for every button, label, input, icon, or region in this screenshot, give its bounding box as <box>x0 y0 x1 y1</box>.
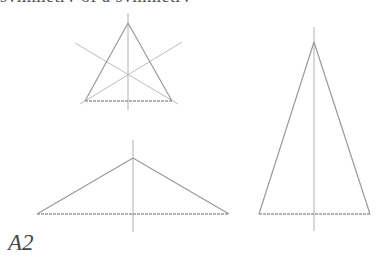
symmetry-diagram <box>0 0 384 262</box>
obtuse-isosceles-triangle-figure <box>37 140 229 232</box>
right-side-line <box>314 42 370 214</box>
angle-bisector-line <box>80 42 182 104</box>
tall-isosceles-triangle-figure <box>259 27 370 231</box>
left-side-line <box>85 23 128 101</box>
figure-label: A2 <box>8 230 34 256</box>
equilateral-triangle-figure <box>75 13 182 110</box>
left-side-line <box>259 42 314 214</box>
left-side-line <box>37 158 133 214</box>
right-side-line <box>133 158 229 214</box>
right-side-line <box>128 23 172 101</box>
angle-bisector-line <box>75 43 178 104</box>
